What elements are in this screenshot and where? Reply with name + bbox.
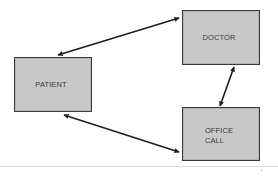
node-patient-label: PATIENT: [35, 80, 66, 90]
arrow-patient-doctor: [58, 18, 179, 55]
relationship-diagram: PATIENT DOCTOR OFFICE CALL: [0, 0, 278, 176]
node-office-call-label: OFFICE CALL: [205, 126, 233, 146]
arrow-patient-officecall: [64, 115, 179, 152]
node-doctor-label: DOCTOR: [203, 33, 236, 43]
arrow-doctor-officecall: [220, 67, 234, 106]
node-office-call: OFFICE CALL: [182, 107, 260, 161]
scan-speck: [261, 170, 262, 171]
page-baseline-divider: [0, 166, 278, 167]
node-patient: PATIENT: [14, 57, 92, 112]
node-doctor: DOCTOR: [182, 10, 260, 65]
